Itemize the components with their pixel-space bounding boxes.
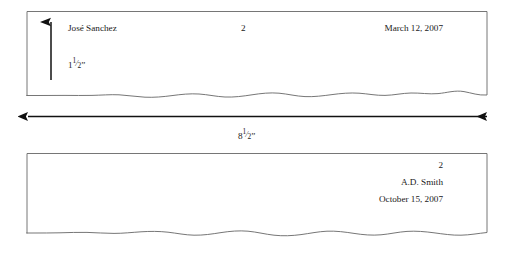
margin-label-fraction: 1⁄2 [73,59,82,68]
bottom-sheet-date-label: October 15, 2007 [300,195,443,204]
diagram-vector-layer [0,0,515,256]
margin-dimension-label: 11⁄2” [68,57,85,70]
top-sheet-page-number: 2 [241,24,246,33]
width-dimension-label: 81⁄2” [238,127,255,142]
width-label-numerator: 1 [243,127,247,136]
width-label-fraction: 1⁄2 [243,130,252,139]
bottom-sheet-name-label: A.D. Smith [300,178,443,187]
top-sheet-date-label: March 12, 2007 [288,24,443,33]
top-sheet-name-label: José Sanchez [68,24,117,33]
margin-label-unit: ” [81,60,85,70]
bottom-sheet-page-number: 2 [300,161,443,170]
diagram-canvas: José Sanchez 2 March 12, 2007 11⁄2” 81⁄2… [0,0,515,256]
width-label-unit: ” [251,131,255,141]
margin-label-numerator: 1 [73,56,77,65]
